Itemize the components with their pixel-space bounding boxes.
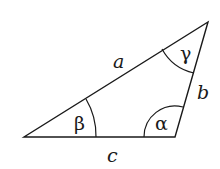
angle-label-alpha: α [155, 112, 168, 134]
triangle [24, 22, 208, 137]
side-label-a: a [113, 50, 124, 72]
angle-arc-beta [86, 99, 96, 137]
side-label-b: b [197, 81, 209, 103]
angle-label-beta: β [74, 112, 85, 134]
angle-label-gamma: γ [180, 42, 191, 64]
side-label-c: c [107, 144, 118, 166]
triangle-diagram: a b c β α γ [0, 0, 220, 169]
